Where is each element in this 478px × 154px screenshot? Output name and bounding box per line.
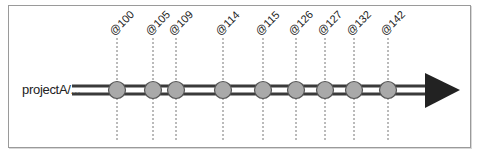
changelist-node[interactable] [109, 82, 126, 99]
changelist-label: @114 [213, 9, 242, 38]
arrow-head-icon [425, 73, 460, 108]
branch-timeline: @100@105@109@114@115@126@127@132@142 [0, 0, 478, 154]
changelist-node[interactable] [215, 82, 232, 99]
changelist-node[interactable] [380, 82, 397, 99]
changelist-label: @115 [253, 9, 282, 38]
changelist-node[interactable] [145, 82, 162, 99]
changelist-node[interactable] [346, 82, 363, 99]
changelist-node[interactable] [168, 82, 185, 99]
changelist-node[interactable] [288, 82, 305, 99]
changelist-node[interactable] [317, 82, 334, 99]
changelist-nodes [109, 82, 397, 99]
changelist-label: @132 [344, 8, 373, 37]
changelist-label: @126 [286, 8, 315, 37]
changelist-label: @105 [143, 8, 172, 37]
changelist-label: @100 [107, 8, 136, 37]
changelist-label: @127 [315, 8, 344, 37]
changelist-label: @142 [378, 8, 407, 37]
changelist-label: @109 [166, 8, 195, 37]
changelist-node[interactable] [255, 82, 272, 99]
changelist-labels: @100@105@109@114@115@126@127@132@142 [107, 8, 407, 37]
